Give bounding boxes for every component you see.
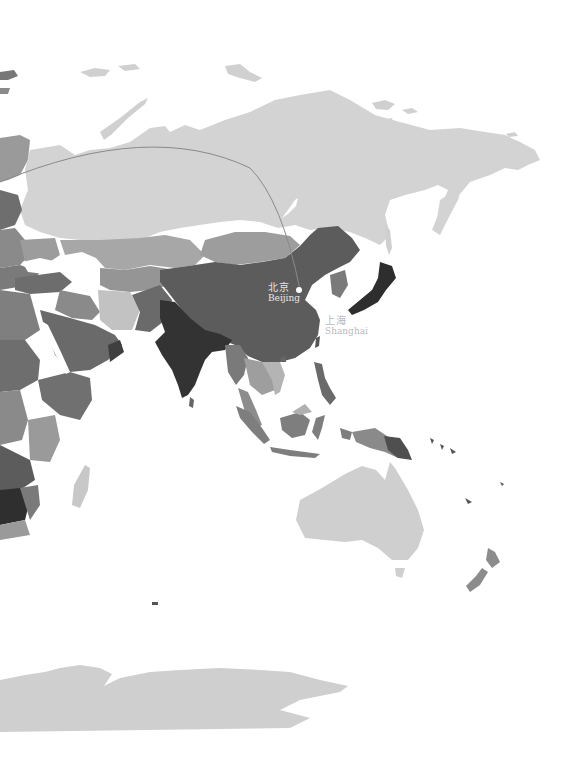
sakhalin [385,225,392,255]
russia [20,90,540,245]
kazakhstan [60,235,205,270]
europe-north [0,70,30,182]
papua-new-guinea [384,436,412,460]
world-map [0,0,588,782]
novaya-zemlya [100,98,148,140]
sri-lanka [189,397,194,408]
philippines [314,362,336,405]
antarctica [0,665,348,732]
japan [348,262,396,315]
caspian-sea [82,255,100,296]
madagascar [72,465,90,508]
beijing-marker[interactable] [296,287,302,293]
australia [296,462,424,560]
tasmania [395,568,405,578]
korea [330,270,348,298]
new-zealand [466,548,500,592]
